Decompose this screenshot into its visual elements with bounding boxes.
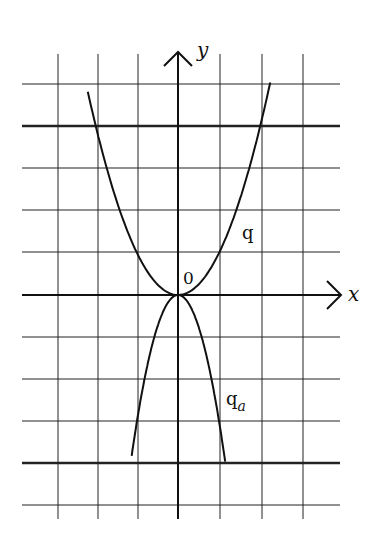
x-axis-label: x [348,284,359,304]
curve-q-a-subscript: a [238,398,246,414]
axes [22,52,341,519]
curve-q [88,82,270,295]
curve-q-a-label-main: q [226,388,238,409]
grid [22,54,340,519]
y-axis-label: y [197,40,208,60]
origin-label: 0 [183,270,194,287]
curve-q-label: q [242,224,254,242]
curve-q-a-label: qa [226,390,246,408]
